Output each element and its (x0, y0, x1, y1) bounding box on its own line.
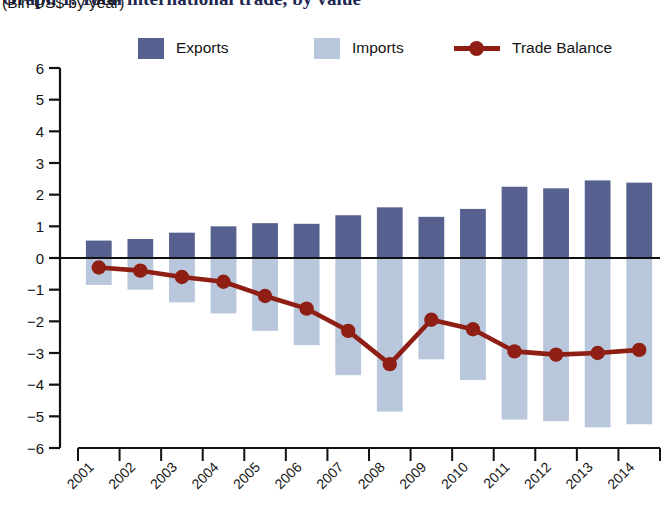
trade-balance-point (92, 260, 106, 274)
y-axis-tick-label: −3 (27, 345, 44, 362)
trade-balance-point (590, 346, 604, 360)
bars-imports (86, 258, 652, 427)
bar-exports (543, 188, 569, 258)
bar-exports (86, 241, 112, 258)
trade-balance-point (258, 289, 272, 303)
x-axis-tick-label: 2009 (396, 459, 429, 492)
bar-imports (502, 258, 528, 420)
x-axis-tick-label: 2006 (271, 459, 304, 492)
trade-balance-point (466, 322, 480, 336)
trade-balance-point (424, 313, 438, 327)
x-axis-tick-label: 2001 (64, 459, 97, 492)
x-axis-tick-label: 2010 (438, 459, 471, 492)
trade-balance-point (175, 270, 189, 284)
x-axis-tick-label: 2013 (562, 459, 595, 492)
y-axis-tick-label: −2 (27, 313, 44, 330)
x-axis-tick-label: 2004 (188, 459, 221, 492)
y-axis-tick-label: 3 (36, 155, 44, 172)
trade-balance-point (507, 344, 521, 358)
trade-balance-point (383, 357, 397, 371)
trade-balance-point (341, 324, 355, 338)
x-axis-tick-label: 2007 (313, 459, 346, 492)
bar-imports (585, 258, 611, 427)
bar-imports (626, 258, 652, 424)
bar-exports (377, 207, 403, 258)
bar-exports (585, 180, 611, 258)
x-axis-tick-label: 2002 (105, 459, 138, 492)
bar-imports (418, 258, 444, 359)
y-axis-tick-label: 2 (36, 186, 44, 203)
y-axis-tick-label: 0 (36, 250, 44, 267)
y-axis-tick-label: −4 (27, 376, 44, 393)
y-axis: 6543210−1−2−3−4−5−6 (27, 60, 60, 457)
x-axis-tick-label: 2011 (480, 459, 513, 492)
y-axis-tick-label: 5 (36, 91, 44, 108)
bar-exports (418, 217, 444, 258)
bar-exports (335, 215, 361, 258)
x-axis-tick-label: 2012 (521, 459, 554, 492)
bar-exports (169, 233, 195, 258)
bar-imports (377, 258, 403, 412)
y-axis-tick-label: 6 (36, 60, 44, 77)
x-axis-tick-labels: 2001200220032004200520062007200820092010… (64, 459, 638, 492)
y-axis-tick-label: 4 (36, 123, 44, 140)
y-axis-tick-label: 1 (36, 218, 44, 235)
trade-balance-point (299, 301, 313, 315)
bar-exports (502, 187, 528, 258)
x-axis (78, 448, 660, 461)
x-axis-tick-label: 2003 (147, 459, 180, 492)
y-axis-tick-label: −1 (27, 281, 44, 298)
bar-imports (460, 258, 486, 380)
bar-exports (127, 239, 153, 258)
trade-balance-point (632, 343, 646, 357)
x-axis-tick-label: 2005 (230, 459, 263, 492)
y-axis-tick-label: −5 (27, 408, 44, 425)
bar-imports (543, 258, 569, 421)
bar-exports (294, 224, 320, 258)
bar-exports (460, 209, 486, 258)
trade-balance-point (549, 347, 563, 361)
y-axis-tick-label: −6 (27, 440, 44, 457)
chart-plot-area: 6543210−1−2−3−4−5−6 20012002200320042005… (0, 0, 668, 511)
bar-exports (211, 226, 237, 258)
bar-imports (335, 258, 361, 375)
x-axis-tick-label: 2014 (604, 459, 637, 492)
x-axis-tick-label: 2008 (355, 459, 388, 492)
bar-exports (252, 223, 278, 258)
chart-svg: 6543210−1−2−3−4−5−6 20012002200320042005… (0, 0, 668, 511)
bars-exports (86, 180, 652, 258)
trade-balance-point (216, 275, 230, 289)
trade-balance-point (133, 263, 147, 277)
bar-exports (626, 183, 652, 258)
